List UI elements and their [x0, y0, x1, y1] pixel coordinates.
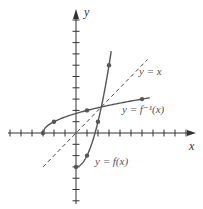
y-axis-arrow	[73, 9, 79, 19]
point-f-inverse	[41, 131, 45, 135]
point-f-inverse	[140, 97, 144, 101]
x-axis-arrow	[187, 130, 196, 136]
label-inverse-function: y = f⁻¹(x)	[121, 103, 165, 116]
point-f	[85, 153, 89, 157]
y-axis-label: y	[83, 5, 90, 19]
x-axis-label: x	[188, 139, 195, 153]
point-f	[107, 63, 111, 67]
point-f-inverse	[52, 120, 56, 124]
point-f	[96, 120, 100, 124]
label-y-equals-x: y = x	[138, 65, 162, 77]
function-inverse-plot: x y y = x y = f⁻¹(x) y = f(x)	[0, 0, 203, 209]
point-f-inverse	[85, 108, 89, 112]
point-f	[74, 165, 78, 169]
label-function: y = f(x)	[94, 155, 128, 168]
